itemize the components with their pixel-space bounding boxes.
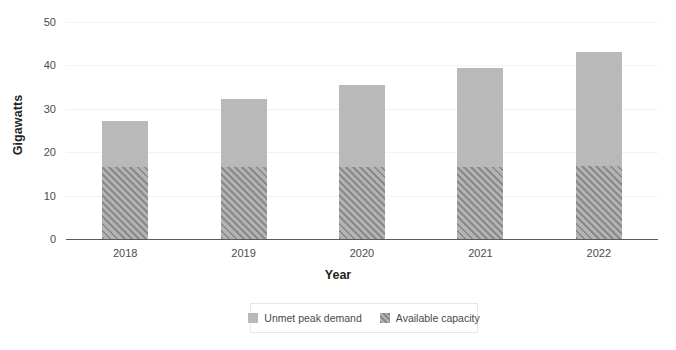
y-tick-label: 30 xyxy=(28,103,56,115)
bar-segment-unmet-peak-demand[interactable] xyxy=(221,99,267,168)
legend-item[interactable]: Unmet peak demand xyxy=(248,312,361,324)
bar-segment-unmet-peak-demand[interactable] xyxy=(339,85,385,168)
y-tick-label: 0 xyxy=(28,233,56,245)
solid-gray-swatch-icon xyxy=(248,313,258,323)
y-tick-label: 40 xyxy=(28,59,56,71)
y-tick-label: 50 xyxy=(28,16,56,28)
bar-group[interactable] xyxy=(102,22,148,239)
bar-segment-unmet-peak-demand[interactable] xyxy=(576,52,622,167)
x-tick-label: 2020 xyxy=(322,247,402,259)
x-tick-label: 2018 xyxy=(85,247,165,259)
x-tick-label: 2021 xyxy=(440,247,520,259)
x-axis-line xyxy=(66,239,658,240)
plot-area xyxy=(66,22,658,239)
hatched-gray-swatch-icon xyxy=(380,313,390,323)
legend-item[interactable]: Available capacity xyxy=(380,312,480,324)
bar-segment-available-capacity[interactable] xyxy=(339,167,385,239)
y-tick-label: 10 xyxy=(28,190,56,202)
bar-segment-available-capacity[interactable] xyxy=(576,166,622,239)
bar-segment-available-capacity[interactable] xyxy=(221,167,267,239)
bar-group[interactable] xyxy=(457,22,503,239)
bar-segment-unmet-peak-demand[interactable] xyxy=(102,121,148,167)
x-tick-label: 2022 xyxy=(559,247,639,259)
legend-item-label: Unmet peak demand xyxy=(264,312,361,324)
stacked-bar-chart: Gigawatts 01020304050 201820192020202120… xyxy=(0,0,676,350)
x-axis-title: Year xyxy=(0,268,676,282)
bar-segment-available-capacity[interactable] xyxy=(457,167,503,239)
legend-item-label: Available capacity xyxy=(396,312,480,324)
y-axis-ticks: 01020304050 xyxy=(22,0,56,250)
bar-group[interactable] xyxy=(339,22,385,239)
x-tick-label: 2019 xyxy=(204,247,284,259)
bar-group[interactable] xyxy=(221,22,267,239)
bar-group[interactable] xyxy=(576,22,622,239)
y-tick-label: 20 xyxy=(28,146,56,158)
bar-segment-unmet-peak-demand[interactable] xyxy=(457,68,503,167)
chart-legend: Unmet peak demandAvailable capacity xyxy=(250,303,478,333)
bar-segment-available-capacity[interactable] xyxy=(102,167,148,239)
